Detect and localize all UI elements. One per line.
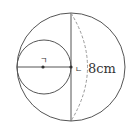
measurement-label: 8cm [88,61,116,76]
big-center-label: ㄴ [75,65,82,74]
big-center-dot [69,65,72,68]
small-center-dot [41,65,44,68]
small-center-label: ㄱ [40,56,47,65]
circle-diagram: ㄱ ㄴ 8cm [0,0,135,130]
